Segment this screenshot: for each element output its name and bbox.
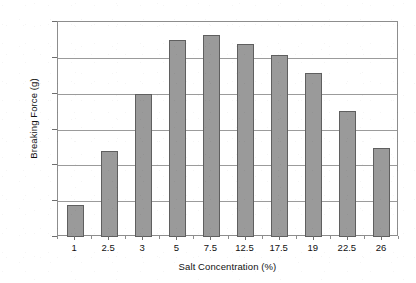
x-minor-tick-mark: [398, 236, 399, 239]
bar: [203, 35, 220, 237]
bar: [373, 148, 390, 237]
gridline: [58, 94, 397, 95]
bar: [271, 55, 288, 237]
x-tick-mark: [142, 236, 143, 240]
y-tick-mark: [52, 21, 57, 22]
x-tick-mark: [245, 236, 246, 240]
bar: [339, 111, 356, 237]
x-tick-mark: [381, 236, 382, 240]
x-tick-mark: [313, 236, 314, 240]
y-tick-mark: [52, 200, 57, 201]
x-minor-tick-mark: [91, 236, 92, 239]
bar: [169, 40, 186, 237]
bar: [237, 44, 254, 237]
y-tick-mark: [52, 57, 57, 58]
bar-chart: Breaking Force (g) 0100200300400500600 1…: [0, 0, 416, 283]
plot-area: [57, 21, 398, 236]
x-minor-tick-mark: [125, 236, 126, 239]
x-minor-tick-mark: [57, 236, 58, 239]
x-minor-tick-mark: [296, 236, 297, 239]
y-tick-mark: [52, 164, 57, 165]
x-minor-tick-mark: [330, 236, 331, 239]
bar: [305, 73, 322, 237]
x-tick-mark: [210, 236, 211, 240]
y-axis-title: Breaking Force (g): [28, 24, 39, 214]
bar: [135, 94, 152, 237]
x-tick-label: 26: [359, 243, 403, 253]
gridline: [58, 58, 397, 59]
x-axis-title: Salt Concentration (%): [57, 261, 398, 272]
x-tick-mark: [279, 236, 280, 240]
bar: [67, 205, 84, 237]
x-tick-mark: [74, 236, 75, 240]
x-tick-mark: [347, 236, 348, 240]
y-tick-mark: [52, 93, 57, 94]
x-tick-mark: [108, 236, 109, 240]
y-tick-mark: [52, 129, 57, 130]
x-minor-tick-mark: [193, 236, 194, 239]
x-minor-tick-mark: [262, 236, 263, 239]
x-minor-tick-mark: [159, 236, 160, 239]
x-minor-tick-mark: [228, 236, 229, 239]
x-minor-tick-mark: [364, 236, 365, 239]
x-tick-mark: [176, 236, 177, 240]
bar: [101, 151, 118, 237]
